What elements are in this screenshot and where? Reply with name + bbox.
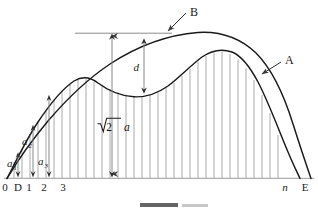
sqrt2a-radicand: 2 <box>106 121 112 133</box>
figure-svg: B A d 2 a a 1 a 2 a 3 0 D 1 2 3 n E <box>0 0 318 210</box>
a2-label-subscript: 2 <box>29 142 33 150</box>
a1-label-subscript: 1 <box>14 164 18 172</box>
axis-label-d: D <box>14 181 22 193</box>
curve-b-path <box>7 50 300 178</box>
axis-label-2: 2 <box>41 181 47 193</box>
axis-label-origin: 0 <box>2 181 8 193</box>
a2-label: a <box>22 135 28 147</box>
axis-label-n: n <box>282 181 288 193</box>
curve-a-path <box>7 32 311 178</box>
caption-strip-cropped-secondary <box>182 204 208 207</box>
b-leader-arrow <box>168 13 186 31</box>
a3-label-subscript: 3 <box>44 162 49 170</box>
axis-label-3: 3 <box>60 181 66 193</box>
axis-label-1: 1 <box>26 181 32 193</box>
sqrt2a-coefficient-a: a <box>124 121 130 133</box>
a3-label: a <box>38 155 44 167</box>
caption-strip-cropped <box>140 203 178 207</box>
figure-container: B A d 2 a a 1 a 2 a 3 0 D 1 2 3 n E <box>0 0 318 210</box>
curve-b-label: B <box>190 5 198 19</box>
d-label: d <box>134 61 140 73</box>
curve-a-label: A <box>285 53 294 67</box>
a1-label: a <box>7 157 13 169</box>
axis-label-e: E <box>302 181 309 193</box>
